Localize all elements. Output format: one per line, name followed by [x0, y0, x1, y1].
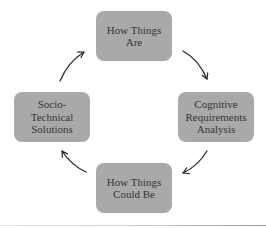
arrow-right-to-bottom-icon — [183, 151, 207, 173]
node-how-things-are: How Things Are — [96, 11, 172, 61]
node-label: Socio- Technical Solutions — [31, 98, 74, 136]
bottom-divider — [0, 225, 266, 226]
node-cognitive-requirements-analysis: Cognitive Requirements Analysis — [178, 92, 254, 142]
arrow-left-to-top-icon — [60, 52, 84, 81]
node-label: How Things Could Be — [107, 176, 162, 201]
node-label: How Things Are — [107, 24, 162, 49]
node-label: Cognitive Requirements Analysis — [185, 98, 246, 136]
node-socio-technical-solutions: Socio- Technical Solutions — [14, 92, 90, 142]
arrow-top-to-right-icon — [183, 51, 207, 79]
node-how-things-could-be: How Things Could Be — [96, 163, 172, 213]
arrow-bottom-to-left-icon — [62, 151, 86, 172]
